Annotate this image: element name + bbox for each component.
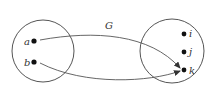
element-i-label: i [189,28,192,39]
element-b-label: b [24,57,30,68]
element-a-label: a [24,36,30,47]
element-i-dot [182,32,187,37]
arrow-a-to-k [40,35,180,68]
function-mapping-diagram: a b i j k G [0,0,212,90]
element-k-label: k [189,65,195,76]
element-b-dot [31,59,36,64]
element-k-dot [182,68,187,73]
element-a-dot [31,38,36,43]
element-j-label: j [187,46,192,57]
function-label: G [105,20,113,31]
arrow-b-to-k [40,63,180,80]
element-j-dot [182,50,187,55]
